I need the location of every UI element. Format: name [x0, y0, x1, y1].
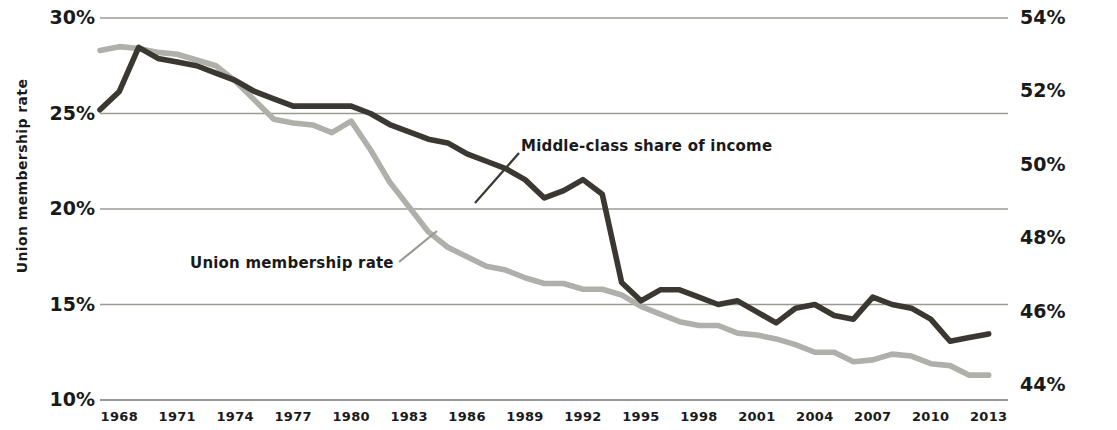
leader-line-union [399, 231, 437, 262]
x-axis-tick-label: 2001 [727, 409, 787, 424]
x-axis-tick-label: 2004 [785, 409, 845, 424]
x-axis-tick-label: 1974 [205, 409, 265, 424]
left-axis-tick-label: 10% [5, 388, 95, 410]
x-axis-tick-label: 1989 [495, 409, 555, 424]
x-axis-tick-label: 1968 [89, 409, 149, 424]
gridlines [100, 18, 1008, 400]
x-axis-tick-label: 2010 [901, 409, 961, 424]
right-axis-tick-label: 54% [1020, 6, 1100, 28]
right-axis-tick-label: 46% [1020, 300, 1100, 322]
right-axis-tick-label: 50% [1020, 153, 1100, 175]
chart-container: Union membership rate Middle-class share… [0, 0, 1117, 430]
series-lines [100, 47, 989, 376]
right-axis-tick-label: 52% [1020, 79, 1100, 101]
x-axis-tick-label: 2013 [959, 409, 1019, 424]
x-axis-tick-label: 1998 [669, 409, 729, 424]
annotation-union-membership-rate: Union membership rate [190, 254, 394, 272]
left-axis-tick-label: 20% [5, 197, 95, 219]
right-axis-tick-label: 44% [1020, 373, 1100, 395]
left-axis-tick-label: 25% [5, 102, 95, 124]
x-axis-tick-label: 2007 [843, 409, 903, 424]
x-axis-tick-label: 1971 [147, 409, 207, 424]
plot-area [0, 0, 1117, 430]
annotation-middle-class-share: Middle-class share of income [521, 137, 772, 155]
x-axis-tick-label: 1986 [437, 409, 497, 424]
left-axis-tick-label: 15% [5, 293, 95, 315]
x-axis-tick-label: 1977 [263, 409, 323, 424]
series-line [100, 47, 989, 341]
series-line [100, 47, 989, 376]
x-axis-tick-label: 1983 [379, 409, 439, 424]
x-axis-tick-label: 1992 [553, 409, 613, 424]
right-axis-tick-label: 48% [1020, 226, 1100, 248]
x-axis-tick-label: 1980 [321, 409, 381, 424]
left-axis-tick-label: 30% [5, 6, 95, 28]
x-axis-tick-label: 1995 [611, 409, 671, 424]
